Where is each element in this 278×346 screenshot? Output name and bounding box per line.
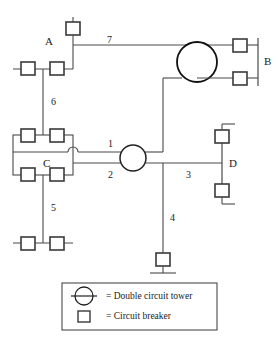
circuit-breaker-d-bottom[interactable] xyxy=(215,184,229,197)
circuit-breaker-line-4-terminal[interactable] xyxy=(156,253,170,266)
bus-b-label: B xyxy=(264,56,271,67)
circuit-breaker-c-top-left[interactable] xyxy=(21,129,35,142)
line-3-label: 3 xyxy=(186,170,191,180)
line-4-label: 4 xyxy=(170,213,175,223)
circuit-breaker-b-bottom[interactable] xyxy=(233,72,247,85)
line-6-label: 6 xyxy=(51,97,56,107)
circuit-breaker-b-top[interactable] xyxy=(233,39,247,52)
circuit-breaker-c-top-right[interactable] xyxy=(50,129,64,142)
double-circuit-tower-b xyxy=(177,42,217,82)
circuit-breaker-c-bottom-left[interactable] xyxy=(21,168,35,181)
legend-item-breaker-text: = Circuit breaker xyxy=(106,311,171,321)
line-7-label: 7 xyxy=(107,35,112,45)
legend-circuit-breaker-icon xyxy=(78,311,90,322)
circuit-breaker-a-left[interactable] xyxy=(21,62,35,75)
circuit-breaker-d-top[interactable] xyxy=(215,130,229,143)
double-circuit-tower-mid xyxy=(120,145,146,171)
bus-d-label: D xyxy=(229,158,237,169)
circuit-breaker-a-top[interactable] xyxy=(66,22,80,35)
line-5-label: 5 xyxy=(51,203,56,213)
bus-a-label: A xyxy=(45,36,53,47)
circuit-breaker-lower-right[interactable] xyxy=(50,237,64,250)
line-1-label: 1 xyxy=(108,139,113,149)
line-2-label: 2 xyxy=(108,170,113,180)
circuit-breaker-a-right[interactable] xyxy=(50,62,64,75)
circuit-breaker-lower-left[interactable] xyxy=(21,237,35,250)
legend-item-tower-text: = Double circuit tower xyxy=(106,291,192,301)
circuit-breaker-c-bottom-right[interactable] xyxy=(50,168,64,181)
bus-c-label: C xyxy=(43,158,50,169)
